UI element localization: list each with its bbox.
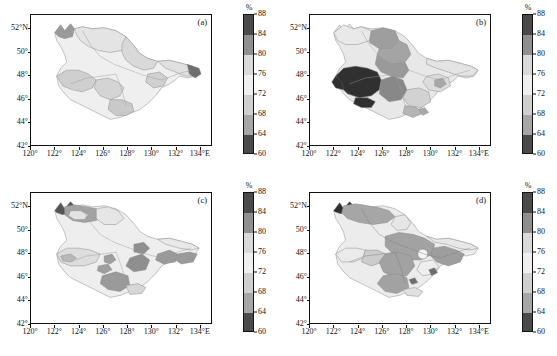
x-tick-label: 130°: [423, 328, 438, 336]
x-tick-label: 128°: [119, 328, 134, 336]
x-tick-label: 120°: [22, 150, 37, 158]
colorbar-tick-mark: [533, 252, 536, 253]
map-regions-c: [55, 202, 199, 298]
colorbar-tick-label: 84: [258, 208, 266, 216]
colorbar-tick-label: 84: [537, 208, 545, 216]
colorbar-tick-label: 80: [537, 50, 545, 58]
colorbar-gradient-a: [243, 14, 254, 154]
x-tick-mark: [79, 325, 80, 328]
colorbar-tick-mark: [533, 114, 536, 115]
panel-label-b: (b): [476, 17, 486, 27]
colorbar-tick-label: 60: [258, 150, 266, 158]
colorbar-tick-mark: [533, 272, 536, 273]
x-tick-mark: [176, 325, 177, 328]
colorbar-band: [523, 213, 532, 233]
colorbar-band: [244, 55, 253, 75]
y-tick-label: 46°: [296, 95, 307, 103]
x-tick-mark: [176, 147, 177, 150]
colorbar-tick-label: 88: [258, 188, 266, 196]
x-tick-label: 132°: [168, 328, 183, 336]
colorbar-tick-mark: [533, 312, 536, 313]
colorbar-tick-mark: [254, 34, 257, 35]
colorbar-d: % 8884807672686460: [522, 192, 556, 332]
colorbar-tick-mark: [254, 212, 257, 213]
x-tick-label: 124°: [71, 328, 86, 336]
colorbar-tick-label: 80: [258, 50, 266, 58]
x-tick-mark: [406, 147, 407, 150]
y-tick-label: 52°N: [290, 24, 307, 32]
x-tick-label: 120°: [22, 328, 37, 336]
colorbar-tick-label: 72: [537, 268, 545, 276]
colorbar-tick-mark: [254, 252, 257, 253]
x-tick-mark: [151, 325, 152, 328]
x-tick-mark: [200, 147, 201, 150]
colorbar-tick-mark: [533, 292, 536, 293]
colorbar-band: [523, 35, 532, 55]
x-tick-label: 126°: [95, 150, 110, 158]
x-tick-label: 134°E: [469, 328, 489, 336]
colorbar-gradient-d: [522, 192, 533, 332]
colorbar-c: % 8884807672686460: [243, 192, 277, 332]
colorbar-band: [523, 293, 532, 313]
colorbar-b: % 8884807672686460: [522, 14, 556, 154]
x-tick-label: 128°: [398, 328, 413, 336]
x-tick-mark: [406, 325, 407, 328]
x-tick-label: 130°: [144, 150, 159, 158]
colorbar-gradient-b: [522, 14, 533, 154]
y-tick-label: 46°: [17, 273, 28, 281]
colorbar-tick-label: 64: [537, 130, 545, 138]
y-tick-label: 50°: [17, 226, 28, 234]
x-tick-mark: [430, 325, 431, 328]
x-tick-mark: [30, 325, 31, 328]
x-tick-label: 124°: [350, 150, 365, 158]
x-tick-label: 122°: [47, 328, 62, 336]
colorbar-tick-label: 80: [537, 228, 545, 236]
x-tick-mark: [333, 147, 334, 150]
x-tick-mark: [455, 147, 456, 150]
colorbar-band: [523, 115, 532, 135]
colorbar-band: [523, 75, 532, 95]
colorbar-tick-label: 68: [258, 288, 266, 296]
colorbar-band: [523, 95, 532, 115]
colorbar-tick-mark: [533, 74, 536, 75]
colorbar-tick-label: 60: [537, 150, 545, 158]
colorbar-unit-d: %: [522, 181, 534, 190]
x-tick-label: 128°: [398, 150, 413, 158]
y-axis-labels-b: 42°44°46°48°50°52°N: [279, 14, 307, 146]
colorbar-band: [244, 253, 253, 273]
colorbar-tick-mark: [533, 14, 536, 15]
x-tick-mark: [358, 147, 359, 150]
colorbar-tick-mark: [533, 34, 536, 35]
colorbar-tick-mark: [254, 94, 257, 95]
y-tick-label: 50°: [17, 48, 28, 56]
x-tick-mark: [54, 147, 55, 150]
colorbar-band: [244, 193, 253, 213]
panel-d: 42°44°46°48°50°52°N: [279, 178, 557, 356]
x-tick-label: 126°: [95, 328, 110, 336]
y-tick-label: 52°N: [11, 202, 28, 210]
y-tick-label: 44°: [296, 118, 307, 126]
colorbar-tick-label: 76: [258, 70, 266, 78]
plot-area-c: (c): [30, 192, 212, 324]
y-tick-label: 50°: [296, 48, 307, 56]
colorbar-band: [244, 135, 253, 154]
y-tick-label: 44°: [296, 296, 307, 304]
x-tick-mark: [479, 325, 480, 328]
map-d: [310, 193, 490, 323]
map-b: [310, 15, 490, 145]
x-tick-mark: [103, 147, 104, 150]
colorbar-tick-label: 64: [258, 308, 266, 316]
colorbar-band: [244, 213, 253, 233]
plot-area-a: (a): [30, 14, 212, 146]
x-tick-mark: [358, 325, 359, 328]
x-tick-mark: [103, 325, 104, 328]
x-tick-mark: [127, 147, 128, 150]
x-tick-mark: [127, 325, 128, 328]
colorbar-tick-label: 72: [258, 90, 266, 98]
colorbar-tick-mark: [533, 212, 536, 213]
x-tick-label: 130°: [144, 328, 159, 336]
colorbar-tick-mark: [254, 292, 257, 293]
x-tick-label: 122°: [326, 328, 341, 336]
colorbar-band: [523, 55, 532, 75]
colorbar-tick-label: 72: [258, 268, 266, 276]
